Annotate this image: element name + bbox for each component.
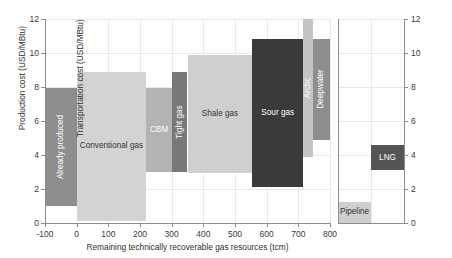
x-tick-label: 400 bbox=[188, 230, 218, 239]
bar-tight-gas: Tight gas bbox=[172, 72, 188, 172]
transportation-cost-panel: PipelineLNG 024681012 bbox=[338, 19, 404, 223]
bar-sour-gas: Sour gas bbox=[252, 39, 303, 188]
x-tick-label: 100 bbox=[93, 230, 123, 239]
y-tick-label: 12 bbox=[25, 15, 39, 24]
y-tick-label: 4 bbox=[25, 151, 39, 160]
x-tick-label: -100 bbox=[30, 230, 60, 239]
right-x-axis-line bbox=[338, 223, 404, 224]
y-tick-label: 10 bbox=[25, 49, 39, 58]
x-tick-label: 500 bbox=[220, 230, 250, 239]
x-axis-title: Remaining technically recoverable gas re… bbox=[45, 243, 330, 251]
bar-conventional-gas: Conventional gas bbox=[77, 72, 147, 222]
bar-label: LNG bbox=[379, 153, 396, 162]
x-tick-mark bbox=[172, 223, 173, 227]
bar-label: Pipeline bbox=[340, 208, 369, 217]
x-tick-mark bbox=[267, 223, 268, 227]
y-tick-label: 8 bbox=[25, 83, 39, 92]
y-tick-mark bbox=[41, 19, 45, 20]
bar-arctic: Arctic bbox=[303, 19, 313, 157]
right-y-tick-label: 4 bbox=[411, 151, 425, 160]
x-tick-label: 800 bbox=[315, 230, 345, 239]
right-plot-area: PipelineLNG bbox=[338, 19, 404, 223]
x-tick-mark bbox=[235, 223, 236, 227]
right-y-tick-label: 6 bbox=[411, 117, 425, 126]
y-tick-mark bbox=[41, 155, 45, 156]
right-y-tick-label: 0 bbox=[411, 219, 425, 228]
y-tick-mark bbox=[41, 189, 45, 190]
y-axis-line bbox=[45, 19, 46, 223]
x-tick-label: 200 bbox=[125, 230, 155, 239]
bar-shale-gas: Shale gas bbox=[188, 55, 253, 173]
x-tick-label: 600 bbox=[252, 230, 282, 239]
right-y-tick-mark bbox=[404, 155, 408, 156]
bar-label: CBM bbox=[150, 125, 168, 134]
x-tick-mark bbox=[330, 223, 331, 227]
right-y-axis-title: Transportation cost (USD/MBtu) bbox=[76, 18, 84, 138]
y-tick-label: 6 bbox=[25, 117, 39, 126]
right-y-tick-mark bbox=[404, 19, 408, 20]
x-tick-label: 0 bbox=[62, 230, 92, 239]
x-tick-mark bbox=[108, 223, 109, 227]
x-tick-label: 300 bbox=[157, 230, 187, 239]
x-tick-mark bbox=[140, 223, 141, 227]
x-tick-mark bbox=[298, 223, 299, 227]
y-tick-mark bbox=[41, 121, 45, 122]
production-cost-panel: Already producedConventional gasCBMTight… bbox=[45, 19, 330, 223]
bar-label: Deepwater bbox=[317, 69, 326, 109]
right-y-tick-label: 10 bbox=[411, 49, 425, 58]
bar-deepwater: Deepwater bbox=[313, 39, 330, 140]
bar-label: Conventional gas bbox=[77, 142, 147, 151]
right-left-spine bbox=[338, 19, 339, 223]
right-y-tick-label: 8 bbox=[411, 83, 425, 92]
bar-lng: LNG bbox=[371, 145, 404, 171]
gridline-vertical bbox=[330, 19, 331, 223]
x-tick-label: 700 bbox=[283, 230, 313, 239]
gas-cost-supply-curve-chart: Already producedConventional gasCBMTight… bbox=[0, 0, 452, 258]
bar-label: Sour gas bbox=[261, 108, 294, 117]
y-tick-mark bbox=[41, 53, 45, 54]
x-tick-mark bbox=[45, 223, 46, 227]
bar-cbm: CBM bbox=[146, 88, 171, 172]
bar-label: Already produced bbox=[56, 115, 65, 179]
y-tick-label: 0 bbox=[25, 219, 39, 228]
right-y-tick-label: 12 bbox=[411, 15, 425, 24]
bar-already-produced: Already produced bbox=[45, 88, 77, 206]
left-y-axis-title: Production cost (USD/MBtu) bbox=[18, 18, 26, 138]
right-y-tick-mark bbox=[404, 121, 408, 122]
bar-label: Tight gas bbox=[175, 105, 184, 138]
y-tick-mark bbox=[41, 87, 45, 88]
x-axis-line bbox=[45, 223, 330, 224]
left-plot-area: Already producedConventional gasCBMTight… bbox=[45, 19, 330, 223]
x-tick-mark bbox=[203, 223, 204, 227]
right-y-tick-mark bbox=[404, 53, 408, 54]
right-y-tick-mark bbox=[404, 223, 408, 224]
x-tick-mark bbox=[77, 223, 78, 227]
bar-pipeline: Pipeline bbox=[338, 202, 371, 223]
right-y-tick-mark bbox=[404, 87, 408, 88]
bar-label: Arctic bbox=[303, 78, 312, 98]
y-tick-label: 2 bbox=[25, 185, 39, 194]
bar-label: Shale gas bbox=[202, 109, 238, 118]
right-y-tick-label: 2 bbox=[411, 185, 425, 194]
right-y-tick-mark bbox=[404, 189, 408, 190]
